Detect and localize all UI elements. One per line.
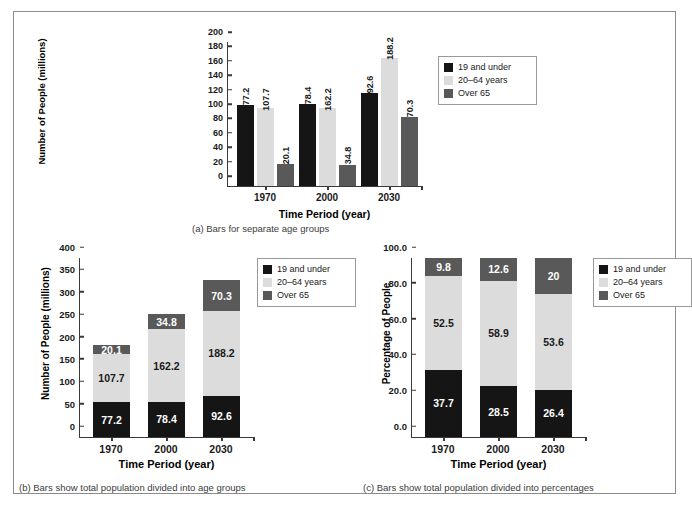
bar-1970-under19	[237, 105, 254, 186]
segment-2000-age20-64: 162.2	[148, 329, 185, 402]
panel-c-ytick-40: 40.0	[389, 349, 413, 360]
segment-1970-age20-64: 107.7	[93, 354, 130, 402]
legend-item-over65: Over 65	[599, 289, 684, 302]
panel-b-xtick-2000: 2000	[154, 437, 177, 455]
stacked-bar-1970: 77.2 107.7 20.1	[93, 345, 130, 437]
panel-b-ytick-50: 50	[64, 398, 80, 409]
legend-swatch-age20-64	[263, 278, 272, 287]
panel-a-ytick-100: 100	[208, 99, 228, 109]
segment-pct-1970-under19: 37.7	[425, 370, 462, 437]
legend-label-under19: 19 and under	[458, 61, 511, 74]
bar-label-2000-age20-64: 162.2	[321, 78, 334, 122]
panel-a-bars-separate: Number of People (millions) 0 20 40 60 8…	[14, 12, 677, 232]
stacked-pct-bar-1970: 37.7 52.5 9.8	[425, 258, 462, 437]
bar-label-2030-over65: 70.3	[403, 88, 416, 130]
bar-label-2000-under19: 78.4	[301, 75, 314, 115]
panel-a-caption: (a) Bars for separate age groups	[192, 223, 329, 234]
panel-b-xtick-mark-end	[253, 437, 255, 441]
panel-a-xtick-2000: 2000	[316, 186, 338, 203]
segment-pct-2000-over65: 12.6	[480, 258, 517, 281]
segment-pct-2030-over65: 20	[535, 258, 572, 294]
stacked-bar-2000: 78.4 162.2 34.8	[148, 314, 185, 437]
figure-frame: Number of People (millions) 0 20 40 60 8…	[13, 11, 676, 494]
panel-b-xtick-1970: 1970	[99, 437, 122, 455]
panel-c-stacked-percent: Percentage of People 0.0 20.0 40.0 60.0 …	[344, 240, 677, 495]
segment-label-2000-under19: 78.4	[148, 413, 185, 425]
legend-item-under19: 19 and under	[444, 61, 529, 74]
legend-item-age20-64: 20–64 years	[599, 276, 684, 289]
segment-pct-2000-age20-64: 58.9	[480, 281, 517, 386]
segment-pct-label-1970-over65: 9.8	[425, 261, 462, 273]
stacked-bar-2030: 92.6 188.2 70.3	[203, 280, 240, 437]
bar-2030-under19	[361, 93, 378, 186]
panel-b-ytick-200: 200	[59, 331, 80, 342]
panel-a-x-axis-title: Time Period (year)	[227, 208, 422, 220]
legend-swatch-under19	[263, 265, 272, 274]
segment-pct-2030-under19: 26.4	[535, 390, 572, 437]
panel-a-xtick-mark-end	[421, 186, 423, 190]
segment-label-1970-over65: 20.1	[93, 345, 130, 354]
panel-c-legend: 19 and under 20–64 years Over 65	[593, 258, 692, 307]
panel-a-ytick-160: 160	[208, 56, 228, 66]
panel-c-xtick-2000: 2000	[486, 437, 509, 455]
panel-b-plot-area: 0 50 100 150 200 250 300 350 400 77.2 10…	[79, 258, 254, 438]
panel-c-xtick-2030: 2030	[541, 437, 564, 455]
panel-b-ytick-100: 100	[59, 376, 80, 387]
panel-a-xtick-2030: 2030	[378, 186, 400, 203]
legend-item-age20-64: 20–64 years	[263, 276, 348, 289]
panel-b-ytick-0: 0	[70, 421, 80, 432]
segment-pct-label-2000-over65: 12.6	[480, 263, 517, 275]
legend-label-under19: 19 and under	[613, 263, 666, 276]
segment-label-2030-over65: 70.3	[203, 290, 240, 302]
panel-c-ytick-0: 0.0	[394, 421, 412, 432]
panel-a-legend: 19 and under 20–64 years Over 65	[438, 56, 537, 105]
panel-b-y-axis-title: Number of People (millions)	[40, 251, 51, 416]
panel-a-ytick-20: 20	[213, 157, 228, 167]
segment-label-2000-over65: 34.8	[148, 316, 185, 328]
legend-swatch-over65	[599, 291, 608, 300]
panel-a-ytick-180: 180	[208, 41, 228, 51]
panel-c-caption: (c) Bars show total population divided i…	[363, 482, 594, 493]
panel-c-ytick-60: 60.0	[389, 313, 413, 324]
segment-pct-2000-under19: 28.5	[480, 386, 517, 437]
panel-a-plot-area: 0 20 40 60 80 100 120 140 160 180 200 77…	[227, 42, 422, 187]
segment-label-2030-age20-64: 188.2	[203, 347, 240, 359]
segment-pct-1970-over65: 9.8	[425, 258, 462, 276]
segment-label-2000-age20-64: 162.2	[148, 360, 185, 372]
bar-label-1970-over65: 20.1	[279, 134, 292, 176]
bar-2000-under19	[299, 104, 316, 186]
segment-label-2030-under19: 92.6	[203, 410, 240, 422]
legend-swatch-over65	[263, 291, 272, 300]
panel-a-ytick-200: 200	[208, 27, 228, 37]
bar-label-1970-age20-64: 107.7	[259, 78, 272, 122]
legend-label-age20-64: 20–64 years	[458, 74, 508, 87]
panel-b-x-axis-title: Time Period (year)	[79, 458, 254, 470]
segment-2030-age20-64: 188.2	[203, 311, 240, 395]
legend-swatch-under19	[444, 63, 453, 72]
segment-1970-over65: 20.1	[93, 345, 130, 354]
stacked-pct-bar-2030: 26.4 53.6 20	[535, 258, 572, 437]
panel-b-ytick-400: 400	[59, 242, 80, 253]
legend-swatch-age20-64	[599, 278, 608, 287]
panel-c-xtick-mark-end	[585, 437, 587, 441]
segment-1970-under19: 77.2	[93, 402, 130, 437]
panel-b-legend: 19 and under 20–64 years Over 65	[257, 258, 356, 307]
stacked-pct-bar-2000: 28.5 58.9 12.6	[480, 258, 517, 437]
bar-label-1970-under19: 77.2	[239, 77, 252, 117]
legend-label-over65: Over 65	[458, 87, 490, 100]
segment-pct-label-2030-under19: 26.4	[535, 407, 572, 419]
panel-c-x-axis-title: Time Period (year)	[411, 458, 586, 470]
segment-pct-label-2000-under19: 28.5	[480, 406, 517, 418]
legend-swatch-over65	[444, 89, 453, 98]
panel-a-ytick-120: 120	[208, 85, 228, 95]
panel-c-ytick-20: 20.0	[389, 385, 413, 396]
legend-item-over65: Over 65	[263, 289, 348, 302]
bar-label-2000-over65: 34.8	[341, 135, 354, 177]
panel-c-ytick-100: 100.0	[383, 242, 412, 253]
legend-item-over65: Over 65	[444, 87, 529, 100]
panel-a-ytick-0: 0	[218, 171, 228, 181]
panel-a-ytick-140: 140	[208, 70, 228, 80]
panel-b-caption: (b) Bars show total population divided i…	[19, 482, 246, 493]
legend-item-age20-64: 20–64 years	[444, 74, 529, 87]
segment-label-1970-under19: 77.2	[93, 414, 130, 426]
